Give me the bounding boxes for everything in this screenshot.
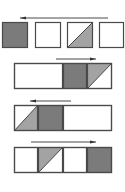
row-3 [14, 99, 112, 131]
cell-empty [100, 23, 124, 48]
cell-dark [2, 22, 28, 48]
dark-fill [63, 63, 87, 89]
cell-dark [87, 147, 112, 173]
dark-fill [87, 147, 112, 173]
row-4 [15, 140, 113, 173]
cell-empty [15, 64, 63, 89]
cell-border [64, 148, 87, 173]
arrow-right-icon [31, 140, 96, 143]
cell-border [15, 64, 63, 89]
sliding-blocks-diagram [0, 0, 125, 192]
cell-border [15, 148, 38, 173]
cell-empty [64, 148, 87, 173]
row-2 [15, 57, 113, 89]
cell-border [36, 23, 61, 48]
cell-border [64, 106, 112, 131]
dark-fill [38, 105, 63, 131]
cell-empty [36, 23, 61, 48]
cell-triangle-lower-right [14, 105, 38, 131]
cell-triangle-lower-right [67, 22, 93, 48]
cell-triangle-upper-left [87, 63, 112, 89]
cell-empty [15, 148, 38, 173]
row-1 [2, 16, 124, 48]
cell-triangle-upper-left [38, 147, 63, 173]
cell-empty [64, 106, 112, 131]
arrow-right-icon [56, 57, 96, 60]
cell-dark [63, 63, 87, 89]
arrow-left-icon [30, 99, 71, 102]
arrow-left-icon [20, 16, 108, 19]
cell-border [100, 23, 124, 48]
cell-dark [38, 105, 63, 131]
dark-fill [2, 22, 28, 48]
